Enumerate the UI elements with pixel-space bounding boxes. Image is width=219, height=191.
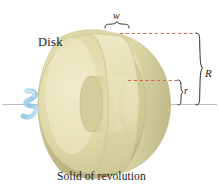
figure-caption: Solid of revolution (57, 171, 146, 183)
disk-label: Disk (38, 36, 63, 49)
width-label: w (113, 11, 120, 21)
inner-radius-label: r (184, 87, 188, 97)
brace-w (105, 22, 129, 29)
brace-R (196, 33, 203, 105)
brace-r (178, 80, 183, 105)
outer-radius-label: R (205, 68, 212, 79)
revolution-arrow-icon (23, 91, 36, 117)
solid-body (38, 29, 171, 179)
